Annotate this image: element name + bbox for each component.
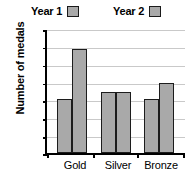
bar-silver-year-2 <box>116 92 131 153</box>
medals-bar-chart: Year 1 Year 2 Number of medals 35 30 25 … <box>0 0 186 177</box>
x-tick-1 <box>93 153 95 158</box>
legend-label-year-2: Year 2 <box>113 6 144 17</box>
x-label-bronze: Bronze <box>135 159 186 171</box>
bar-silver-year-1 <box>101 92 116 153</box>
chart-legend: Year 1 Year 2 <box>0 2 186 22</box>
legend-swatch-year-1 <box>67 6 79 17</box>
bar-group-gold <box>57 28 87 153</box>
x-tick-3 <box>183 153 185 158</box>
bar-gold-year-1 <box>57 99 72 153</box>
bar-groups <box>47 28 185 153</box>
bar-bronze-year-2 <box>159 83 174 153</box>
plot-area: 35 30 25 20 15 10 5 0 <box>45 30 183 155</box>
bar-gold-year-2 <box>72 49 87 153</box>
x-tick-0 <box>47 153 49 158</box>
y-axis-title: Number of medals <box>14 10 26 126</box>
bar-bronze-year-1 <box>144 99 159 153</box>
legend-item-year-2: Year 2 <box>113 2 161 20</box>
legend-item-year-1: Year 1 <box>31 2 79 20</box>
bar-group-bronze <box>144 28 174 153</box>
x-tick-2 <box>137 153 139 158</box>
legend-swatch-year-2 <box>149 6 161 17</box>
bar-group-silver <box>101 28 131 153</box>
legend-label-year-1: Year 1 <box>31 6 62 17</box>
x-axis-labels: Gold Silver Bronze <box>45 159 186 175</box>
